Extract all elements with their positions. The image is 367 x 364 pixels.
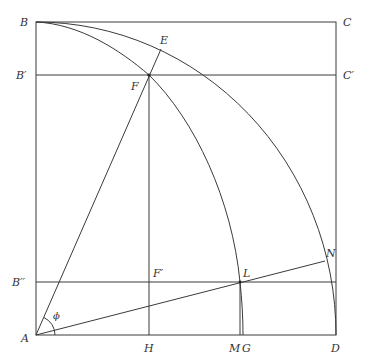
label-L: L: [242, 267, 250, 280]
label-H: H: [143, 342, 154, 355]
line-A-E: [36, 49, 161, 335]
label-B-double-prime: B′′: [11, 276, 26, 289]
label-N: N: [325, 247, 336, 260]
label-C-prime: C′: [343, 69, 354, 82]
label-G: G: [242, 342, 251, 355]
point-L-dot: [239, 281, 242, 284]
quadratrix-diagram: B C E F B′ C′ B′′ F′ L N A ϕ H M G D: [0, 0, 367, 364]
label-E: E: [159, 34, 168, 47]
label-B: B: [19, 16, 28, 29]
label-M: M: [228, 342, 241, 355]
point-F-dot: [147, 73, 150, 76]
label-C: C: [343, 16, 352, 29]
line-A-N: [36, 261, 325, 335]
label-B-prime: B′: [15, 69, 27, 82]
quadratrix-curve: [36, 22, 243, 335]
label-F-prime: F′: [152, 267, 164, 280]
square-ABCD: [36, 22, 336, 335]
label-A: A: [20, 332, 29, 345]
label-F: F: [130, 80, 139, 93]
arc-B-D: [36, 22, 336, 335]
label-phi: ϕ: [53, 310, 60, 321]
label-D: D: [330, 342, 340, 355]
